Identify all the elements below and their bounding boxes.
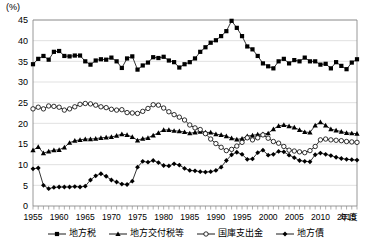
legend-item-2[interactable]: 地方交付税等 (109, 228, 184, 239)
data-point-marker (224, 29, 228, 33)
data-point-marker (151, 133, 156, 138)
data-point-marker (198, 127, 202, 131)
data-point-marker (339, 156, 344, 161)
data-point-marker (281, 149, 286, 154)
data-point-marker (323, 152, 328, 157)
data-point-marker (308, 59, 312, 63)
data-point-marker (350, 60, 354, 64)
data-point-marker (302, 129, 307, 134)
data-point-marker (167, 58, 171, 62)
data-point-marker (46, 104, 50, 108)
data-point-marker (172, 112, 176, 116)
data-point-marker (187, 168, 192, 173)
legend-item-1[interactable]: 地方税 (48, 228, 96, 239)
data-point-marker (292, 58, 296, 62)
data-point-marker (355, 158, 360, 163)
x-tick-label: 1985 (180, 212, 199, 222)
data-point-marker (135, 68, 139, 72)
data-point-marker (99, 105, 103, 109)
data-point-marker (271, 126, 276, 131)
data-point-marker (57, 105, 61, 109)
data-point-marker (203, 131, 207, 135)
data-point-marker (256, 54, 260, 58)
data-point-marker (177, 115, 181, 119)
data-point-marker (145, 135, 150, 140)
x-tick-label: 2000 (259, 212, 278, 222)
data-point-marker (36, 57, 40, 61)
chart-legend: 地方税地方交付税等国庫支出金地方債 (0, 228, 371, 239)
y-tick-label: 20 (18, 119, 28, 129)
data-point-marker (31, 107, 35, 111)
data-point-marker (302, 159, 307, 164)
data-point-marker (67, 140, 72, 145)
data-point-marker (30, 148, 35, 153)
data-point-marker (271, 152, 276, 157)
data-point-marker (188, 60, 192, 64)
data-point-marker (203, 45, 207, 49)
series-1 (31, 19, 359, 72)
data-point-marker (130, 179, 135, 184)
data-point-marker (213, 168, 218, 173)
legend-item-label: 地方税 (69, 228, 96, 239)
data-point-marker (276, 141, 280, 145)
data-point-marker (344, 139, 348, 143)
data-point-marker (193, 56, 197, 60)
y-tick-label: 25 (18, 98, 28, 108)
legend-marker-filled-square-icon (48, 229, 66, 239)
data-point-marker (41, 107, 45, 111)
data-point-marker (109, 107, 113, 111)
data-point-marker (151, 103, 155, 107)
data-point-marker (334, 155, 339, 160)
y-tick-label: 15 (18, 139, 28, 149)
data-point-marker (339, 64, 343, 68)
legend-item-4[interactable]: 地方債 (276, 228, 324, 239)
data-point-marker (245, 136, 249, 140)
data-point-marker (120, 107, 124, 111)
line-chart-plot: 0510152025303540451955196019651970197519… (0, 0, 371, 226)
data-point-marker (245, 44, 249, 48)
data-point-marker (329, 138, 333, 142)
data-point-marker (41, 183, 46, 188)
data-point-marker (146, 106, 150, 110)
y-tick-label: 30 (18, 77, 28, 87)
data-point-marker (355, 140, 359, 144)
data-point-marker (318, 151, 323, 156)
data-point-marker (350, 140, 354, 144)
data-point-marker (282, 231, 287, 236)
legend-marker-filled-triangle-icon (109, 229, 127, 239)
data-point-marker (256, 136, 260, 140)
data-point-marker (234, 150, 239, 155)
data-point-marker (287, 61, 291, 65)
data-point-marker (229, 147, 233, 151)
data-point-marker (287, 153, 292, 158)
x-tick-label: 1980 (154, 212, 173, 222)
data-point-marker (166, 163, 171, 168)
data-point-marker (172, 161, 177, 166)
data-point-marker (115, 59, 119, 63)
data-point-marker (344, 157, 349, 162)
data-point-marker (198, 50, 202, 54)
data-point-marker (114, 180, 119, 185)
data-point-marker (287, 148, 291, 152)
data-point-marker (120, 66, 124, 70)
series-3 (31, 101, 359, 155)
y-tick-label: 35 (18, 57, 28, 67)
legend-item-3[interactable]: 国庫支出金 (197, 228, 263, 239)
x-tick-label: 1970 (102, 212, 121, 222)
data-point-marker (271, 66, 275, 70)
data-point-marker (334, 138, 338, 142)
data-point-marker (318, 63, 322, 67)
data-point-marker (161, 106, 165, 110)
data-point-marker (151, 55, 155, 59)
data-point-marker (104, 105, 108, 109)
data-point-marker (229, 136, 234, 141)
y-tick-label: 45 (18, 15, 28, 25)
data-point-marker (151, 158, 156, 163)
data-point-marker (156, 103, 160, 107)
data-point-marker (41, 54, 45, 58)
data-point-marker (344, 67, 348, 71)
data-point-marker (261, 61, 265, 65)
data-point-marker (94, 103, 98, 107)
data-point-marker (161, 163, 166, 168)
y-tick-label: 10 (18, 160, 28, 170)
